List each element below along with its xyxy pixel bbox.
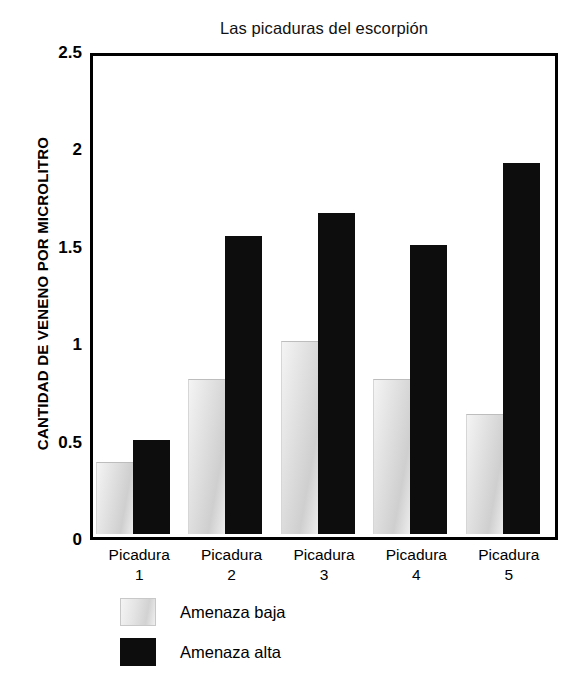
bar-group	[96, 59, 188, 534]
bar-amenaza-alta	[318, 213, 355, 534]
x-tick-label-index: 3	[278, 565, 370, 585]
bar-amenaza-alta	[133, 440, 170, 534]
bars-layer	[96, 59, 552, 534]
x-tick-label-name: Picadura	[201, 546, 262, 563]
y-tick-label: 1	[10, 336, 82, 353]
x-axis-tick-labels: Picadura1Picadura2Picadura3Picadura4Pica…	[90, 545, 558, 600]
x-tick-label: Picadura3	[278, 545, 370, 585]
bar-amenaza-baja	[466, 414, 505, 534]
bar-amenaza-alta	[503, 163, 540, 534]
x-tick-label: Picadura1	[93, 545, 185, 585]
x-tick-label: Picadura2	[185, 545, 277, 585]
chart-legend: Amenaza bajaAmenaza alta	[120, 595, 480, 675]
bar-amenaza-baja	[281, 341, 320, 534]
bar-amenaza-baja	[373, 379, 412, 534]
bar-group	[373, 59, 465, 534]
y-tick-label: 2.5	[10, 44, 82, 61]
x-tick-label-name: Picadura	[386, 546, 447, 563]
x-tick-label-name: Picadura	[109, 546, 170, 563]
legend-swatch-low	[120, 598, 156, 626]
y-tick-label: 2	[10, 141, 82, 158]
bar-group	[281, 59, 373, 534]
bar-group	[188, 59, 280, 534]
bar-amenaza-alta	[225, 236, 262, 534]
legend-label: Amenaza alta	[180, 643, 281, 662]
legend-swatch-high	[120, 638, 156, 666]
y-tick-label: 1.5	[10, 239, 82, 256]
bar-chart: Las picaduras del escorpión CANTIDAD DE …	[0, 0, 574, 676]
bar-amenaza-alta	[410, 245, 447, 534]
y-axis-tick-labels: 00.511.522.5	[0, 0, 82, 676]
x-tick-label-index: 5	[463, 565, 555, 585]
x-tick-label: Picadura5	[463, 545, 555, 585]
x-tick-label-index: 1	[93, 565, 185, 585]
plot-area	[90, 53, 558, 540]
legend-label: Amenaza baja	[180, 603, 286, 622]
x-tick-label-index: 2	[185, 565, 277, 585]
legend-item: Amenaza baja	[120, 595, 480, 629]
x-tick-label-name: Picadura	[293, 546, 354, 563]
chart-title: Las picaduras del escorpión	[90, 18, 558, 38]
x-tick-label: Picadura4	[370, 545, 462, 585]
bar-amenaza-baja	[188, 379, 227, 534]
y-tick-label: 0.5	[10, 434, 82, 451]
x-tick-label-name: Picadura	[478, 546, 539, 563]
bar-amenaza-baja	[96, 462, 135, 534]
bar-group	[466, 59, 558, 534]
y-tick-label: 0	[10, 531, 82, 548]
legend-item: Amenaza alta	[120, 635, 480, 669]
x-tick-label-index: 4	[370, 565, 462, 585]
